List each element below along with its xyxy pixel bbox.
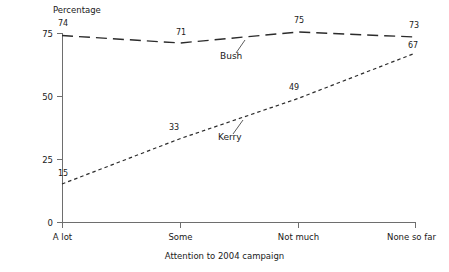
data-label-kerry-not-much: 49 — [285, 84, 303, 92]
y-tick-label-0: 0 — [32, 219, 53, 228]
line-chart: Percentage 75 50 25 0 A lot Some Not muc… — [0, 0, 449, 272]
data-label-bush-a-lot: 74 — [54, 20, 72, 28]
y-axis-title: Percentage — [53, 6, 101, 15]
series-line-bush — [62, 32, 415, 43]
x-tick-label-none-so-far: None so far — [377, 233, 446, 242]
x-axis-title: Attention to 2004 campaign — [0, 252, 449, 261]
data-label-kerry-some: 33 — [165, 124, 183, 132]
x-tick-label-not-much: Not much — [264, 233, 333, 242]
data-label-kerry-none-so-far: 67 — [404, 42, 422, 50]
data-label-bush-none-so-far: 73 — [405, 22, 423, 30]
data-label-bush-not-much: 75 — [290, 17, 308, 25]
series-label-kerry: Kerry — [218, 133, 242, 142]
y-tick-label-25: 25 — [32, 156, 53, 165]
x-tick-label-some: Some — [146, 233, 215, 242]
y-tick-label-50: 50 — [32, 93, 53, 102]
data-label-bush-some: 71 — [172, 29, 190, 37]
series-line-kerry — [62, 53, 415, 184]
y-tick-label-75: 75 — [32, 30, 53, 39]
data-label-kerry-a-lot: 15 — [54, 170, 72, 178]
x-tick-label-a-lot: A lot — [28, 233, 97, 242]
series-label-bush: Bush — [220, 52, 242, 61]
